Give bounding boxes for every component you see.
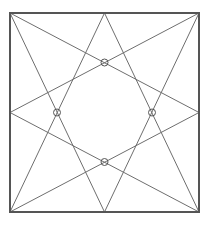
octagram-diagram xyxy=(0,0,200,233)
background xyxy=(0,0,200,233)
